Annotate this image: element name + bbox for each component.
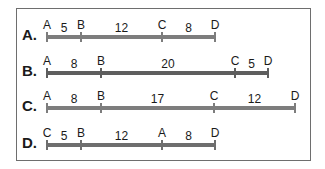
choice-label: D. bbox=[22, 134, 37, 151]
tick-mark bbox=[46, 103, 48, 113]
point-label: A bbox=[158, 126, 166, 140]
point-label: B bbox=[97, 89, 105, 103]
point-label: A bbox=[43, 54, 51, 68]
point-label: C bbox=[210, 89, 219, 103]
choice-label: A. bbox=[22, 26, 37, 43]
tick-mark bbox=[100, 68, 102, 78]
segment-length-label: 20 bbox=[161, 57, 174, 71]
segment-line bbox=[47, 106, 295, 110]
point-label: D bbox=[291, 89, 300, 103]
segment-length-label: 12 bbox=[115, 21, 128, 35]
point-label: C bbox=[158, 18, 167, 32]
point-label: C bbox=[43, 126, 52, 140]
tick-mark bbox=[214, 32, 216, 42]
choice-label: C. bbox=[22, 97, 37, 114]
tick-mark bbox=[80, 140, 82, 150]
point-label: B bbox=[77, 18, 85, 32]
segment-length-label: 8 bbox=[71, 92, 78, 106]
tick-mark bbox=[46, 140, 48, 150]
point-label: D bbox=[264, 54, 273, 68]
point-label: D bbox=[211, 18, 220, 32]
tick-mark bbox=[46, 32, 48, 42]
tick-mark bbox=[267, 68, 269, 78]
point-label: D bbox=[211, 126, 220, 140]
point-label: B bbox=[77, 126, 85, 140]
choice-label: B. bbox=[22, 62, 37, 79]
point-label: C bbox=[231, 54, 240, 68]
segment-length-label: 5 bbox=[248, 57, 255, 71]
segment-length-label: 12 bbox=[248, 92, 261, 106]
point-label: B bbox=[97, 54, 105, 68]
segment-length-label: 17 bbox=[151, 92, 164, 106]
point-label: A bbox=[43, 89, 51, 103]
tick-mark bbox=[294, 103, 296, 113]
segment-length-label: 8 bbox=[71, 57, 78, 71]
tick-mark bbox=[214, 140, 216, 150]
tick-mark bbox=[100, 103, 102, 113]
segment-length-label: 5 bbox=[61, 129, 68, 143]
tick-mark bbox=[46, 68, 48, 78]
segment-length-label: 8 bbox=[185, 129, 192, 143]
tick-mark bbox=[161, 140, 163, 150]
point-label: A bbox=[43, 18, 51, 32]
segment-line bbox=[47, 143, 215, 147]
tick-mark bbox=[161, 32, 163, 42]
segment-length-label: 8 bbox=[185, 21, 192, 35]
segment-line bbox=[47, 35, 215, 39]
segment-length-label: 12 bbox=[115, 129, 128, 143]
tick-mark bbox=[213, 103, 215, 113]
tick-mark bbox=[80, 32, 82, 42]
segment-length-label: 5 bbox=[61, 21, 68, 35]
tick-mark bbox=[234, 68, 236, 78]
